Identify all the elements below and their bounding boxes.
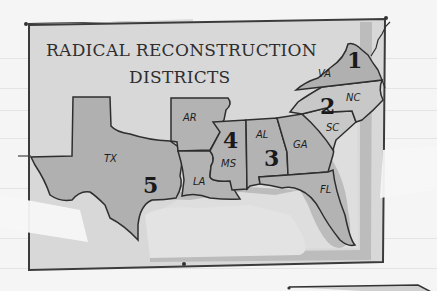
state-label-la: LA [193,176,206,187]
state-label-va: VA [318,68,331,79]
card-corner [182,262,186,266]
card-corner [24,22,28,26]
district-number-4: 4 [223,127,238,153]
state-label-fl: FL [320,184,331,195]
map-title-line1: RADICAL RECONSTRUCTION [46,40,317,60]
district-number-2: 2 [320,93,335,119]
map-title-line2: DISTRICTS [129,67,231,87]
district-number-3: 3 [264,145,279,171]
state-label-ga: GA [293,139,308,150]
state-label-nc: NC [346,92,360,103]
state-label-ms: MS [221,158,237,169]
gulf-of-mexico [145,205,306,258]
state-label-sc: SC [326,122,339,133]
state-label-al: AL [255,129,268,140]
district-number-5: 5 [143,172,158,198]
state-label-tx: TX [104,153,118,164]
next-card-edge [289,285,437,291]
card-corner [384,16,388,20]
district-number-1: 1 [347,47,362,73]
state-label-ar: AR [182,112,197,123]
notebook-page: RADICAL RECONSTRUCTION DISTRICTS VA NC S… [0,0,437,291]
tape-right [380,146,437,198]
map-drawing: RADICAL RECONSTRUCTION DISTRICTS VA NC S… [0,0,437,291]
